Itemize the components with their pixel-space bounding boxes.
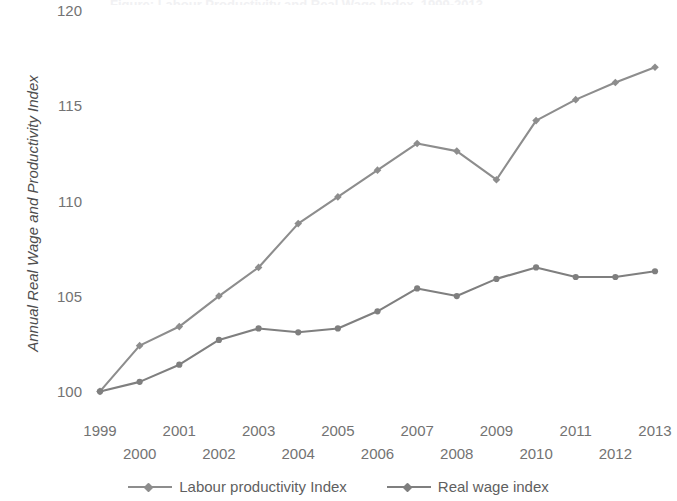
legend-label: Real wage index (438, 478, 549, 495)
x-axis-tick-labels: 1999200020012002200320042005200620072008… (0, 418, 677, 466)
data-point-marker (374, 308, 380, 314)
x-tick-label-2013: 2013 (638, 422, 671, 439)
data-point-marker (454, 293, 460, 299)
data-point-marker (216, 337, 222, 343)
data-point-marker (295, 329, 301, 335)
data-point-marker (572, 96, 580, 104)
data-point-marker (533, 264, 539, 270)
series-canvas (88, 10, 668, 420)
series-labour-productivity-index (96, 63, 659, 395)
data-point-marker (414, 285, 420, 291)
x-tick-label-2002: 2002 (202, 445, 235, 462)
x-tick-label-2005: 2005 (321, 422, 354, 439)
series-line (100, 67, 655, 391)
x-tick-label-2008: 2008 (440, 445, 473, 462)
x-tick-label-2003: 2003 (242, 422, 275, 439)
y-tick-label-105: 105 (30, 288, 82, 305)
series-line (100, 267, 655, 391)
data-point-marker (176, 362, 182, 368)
y-tick-label-120: 120 (30, 2, 82, 19)
legend-diamond-marker (128, 481, 172, 493)
y-tick-label-110: 110 (30, 192, 82, 209)
x-tick-label-2004: 2004 (282, 445, 315, 462)
x-tick-label-2009: 2009 (480, 422, 513, 439)
line-chart: Figure: Labour Productivity and Real Wag… (0, 0, 677, 501)
legend-diamond-marker (387, 481, 431, 493)
y-tick-label-100: 100 (30, 383, 82, 400)
legend-entry-labour-productivity-index[interactable]: Labour productivity Index (128, 478, 347, 495)
series-real-wage-index (97, 264, 658, 394)
data-point-marker (573, 274, 579, 280)
x-tick-label-1999: 1999 (83, 422, 116, 439)
x-tick-label-2011: 2011 (560, 422, 592, 439)
legend-label: Labour productivity Index (179, 478, 347, 495)
data-point-marker (612, 274, 618, 280)
plot-area (88, 10, 668, 420)
y-tick-label-115: 115 (30, 97, 82, 114)
data-point-marker (651, 63, 659, 71)
x-tick-label-2010: 2010 (519, 445, 552, 462)
x-tick-label-2007: 2007 (400, 422, 433, 439)
data-point-marker (652, 268, 658, 274)
data-point-marker (335, 325, 341, 331)
data-point-marker (493, 276, 499, 282)
x-tick-label-2000: 2000 (123, 445, 156, 462)
chart-legend: Labour productivity IndexReal wage index (0, 472, 677, 501)
chart-title-cropped: Figure: Labour Productivity and Real Wag… (110, 0, 580, 5)
data-point-marker (612, 79, 620, 87)
x-tick-label-2006: 2006 (361, 445, 394, 462)
legend-entry-real-wage-index[interactable]: Real wage index (387, 478, 549, 495)
x-tick-label-2001: 2001 (163, 422, 196, 439)
data-point-marker (137, 379, 143, 385)
data-point-marker (97, 388, 103, 394)
x-tick-label-2012: 2012 (599, 445, 632, 462)
data-point-marker (255, 325, 261, 331)
